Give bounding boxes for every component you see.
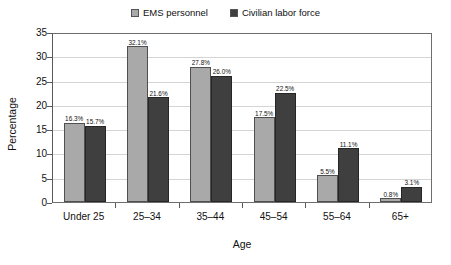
x-axis-category-label: 25–34 xyxy=(115,212,178,222)
x-axis-tick-mark xyxy=(369,203,370,208)
x-axis-category-label: Under 25 xyxy=(52,212,115,222)
x-axis-tick-mark xyxy=(115,203,116,208)
x-axis-category-label: 55–64 xyxy=(305,212,368,222)
x-axis-tick-mark xyxy=(242,203,243,208)
x-axis-category-label: 35–44 xyxy=(179,212,242,222)
x-axis-tick-mark xyxy=(305,203,306,208)
x-axis-tick-mark xyxy=(179,203,180,208)
x-axis-tick-labels: Under 2525–3435–4445–5455–6465+ xyxy=(0,212,451,228)
x-axis-category-label: 65+ xyxy=(369,212,432,222)
x-axis-title: Age xyxy=(52,238,432,250)
x-axis-category-label: 45–54 xyxy=(242,212,305,222)
